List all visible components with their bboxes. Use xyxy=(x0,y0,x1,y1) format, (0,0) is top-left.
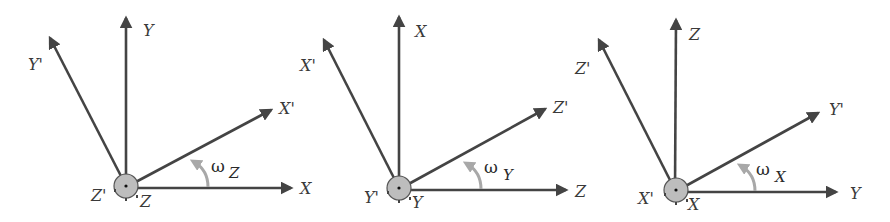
label-up-prime: X' xyxy=(298,56,316,75)
label-omega: ω xyxy=(756,159,770,179)
label-omega: ω xyxy=(211,156,225,176)
label-right: X xyxy=(298,179,312,198)
hub-gear-icon xyxy=(387,176,411,203)
rotation-diagram: Y Y' X' X ω Z Z' Z X X' Z' Z ω Y Y' Y xyxy=(0,0,890,222)
label-right: Y xyxy=(850,184,862,203)
rotation-arc-icon xyxy=(741,166,755,191)
axis-up-arrow xyxy=(675,20,676,190)
label-up: X xyxy=(413,22,427,41)
rotation-arc-icon xyxy=(194,162,208,187)
label-right-prime: Z' xyxy=(552,98,569,117)
label-hub-left: X' xyxy=(636,189,654,208)
label-omega: ω xyxy=(484,157,498,177)
label-up: Z xyxy=(688,25,701,44)
label-up: Y xyxy=(143,21,155,40)
panel-rotation-x: Z Z' Y' Y ω X X' X xyxy=(574,20,862,214)
axis-up-prime-arrow xyxy=(50,38,123,180)
axis-right-prime-arrow xyxy=(405,109,545,186)
label-hub-right: Y xyxy=(412,193,424,212)
label-up-prime: Z' xyxy=(574,59,591,78)
label-right: Z xyxy=(574,182,587,201)
label-omega-sub: Y xyxy=(503,166,515,184)
panel-rotation-z: Y Y' X' X ω Z Z' Z xyxy=(28,18,312,211)
axis-right-prime-arrow xyxy=(132,110,271,184)
hub-gear-icon xyxy=(114,174,138,201)
panel-rotation-y: X X' Z' Z ω Y Y' Y xyxy=(298,17,587,212)
label-omega-sub: Z xyxy=(228,164,240,182)
label-right-prime: X' xyxy=(277,99,295,118)
label-right-prime: Y' xyxy=(829,100,844,119)
label-omega-sub: X xyxy=(774,168,787,186)
rotation-arc-icon xyxy=(467,164,481,189)
axis-right-prime-arrow xyxy=(682,113,818,188)
axis-up-prime-arrow xyxy=(599,40,672,184)
label-hub-left: Y' xyxy=(364,188,379,207)
label-up-prime: Y' xyxy=(28,55,43,74)
label-hub-right: Z xyxy=(139,192,152,211)
hub-gear-icon xyxy=(664,178,688,205)
axis-up-prime-arrow xyxy=(324,40,396,182)
label-hub-right: X xyxy=(686,195,700,214)
label-hub-left: Z' xyxy=(90,186,107,205)
